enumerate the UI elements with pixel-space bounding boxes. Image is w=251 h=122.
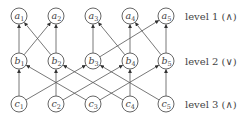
node-a2: a2	[48, 8, 64, 24]
node-b3: b3	[85, 53, 101, 69]
node-c2: c2	[48, 96, 64, 112]
node-a3: a3	[85, 8, 101, 24]
node-c1: c1	[11, 96, 27, 112]
node-b2: b2	[48, 53, 64, 69]
node-c3: c3	[85, 96, 101, 112]
node-b5: b5	[158, 53, 174, 69]
node-c4: c4	[122, 96, 138, 112]
node-a4: a4	[122, 8, 138, 24]
node-b1: b1	[11, 53, 27, 69]
node-b4: b4	[122, 53, 138, 69]
level-2-label: level 2 (∨)	[185, 56, 237, 67]
edge-b4-to-a3	[98, 23, 125, 55]
node-a1: a1	[11, 8, 27, 24]
node-a5: a5	[158, 8, 174, 24]
edge-b3-to-a5	[100, 20, 159, 56]
level-labels: level 1 (∧) level 2 (∨) level 3 (∧)	[185, 11, 237, 110]
layered-graph-diagram: a1a2a3a4a5b1b2b3b4b5c1c2c3c4c5 level 1 (…	[0, 0, 251, 122]
node-c5: c5	[158, 96, 174, 112]
level-1-label: level 1 (∧)	[185, 11, 237, 22]
level-3-label: level 3 (∧)	[185, 99, 237, 110]
nodes: a1a2a3a4a5b1b2b3b4b5c1c2c3c4c5	[11, 8, 174, 112]
